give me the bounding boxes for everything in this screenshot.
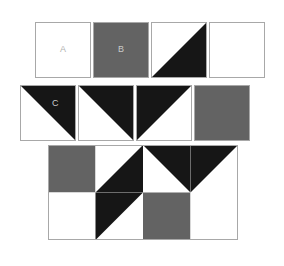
unit-d-base [209, 22, 265, 78]
cell-r1c1 [48, 145, 96, 193]
cell-r1c2 [96, 145, 144, 193]
cell-r2c4-base [191, 193, 239, 241]
unit-c: C [20, 85, 76, 141]
cell-r2c1-base [48, 193, 96, 241]
unit-a: A [35, 22, 91, 78]
unit-f [136, 85, 192, 141]
unit-b: B [93, 22, 149, 78]
cell-r1c4 [191, 145, 239, 193]
cell-r2c3-base [143, 193, 191, 241]
quilt-diagram-svg: ABC [0, 0, 284, 266]
cell-r2c2 [96, 193, 144, 241]
cell-r1c1-base [48, 145, 96, 193]
cell-r2c1 [48, 193, 96, 241]
cell-r2c3 [143, 193, 191, 241]
cell-r1c3 [143, 145, 191, 193]
unit-g [194, 85, 250, 141]
unit-b-label: B [118, 44, 124, 54]
unit-d [209, 22, 265, 78]
unit-a-label: A [60, 44, 66, 54]
assembled-quilt-block [48, 145, 238, 240]
unit-g-base [194, 85, 250, 141]
cell-r2c4 [191, 193, 239, 241]
unit-c1 [151, 22, 207, 78]
unit-c-label: C [52, 98, 59, 108]
quilt-diagram-canvas: ABC [0, 0, 284, 266]
unit-e [78, 85, 134, 141]
